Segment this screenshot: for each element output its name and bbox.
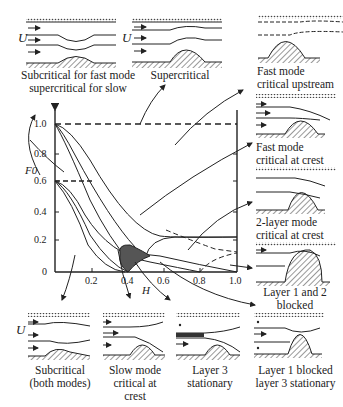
panel-fast-critical-upstream [258, 15, 343, 63]
x-tick-08: 0.8 [193, 275, 206, 286]
panel-fast-critical-crest [256, 94, 336, 138]
diagram-canvas [0, 0, 343, 407]
panel-subcritical-both [28, 313, 90, 360]
panel-layers-blocked [256, 242, 336, 286]
x-tick-04: 0.4 [121, 275, 134, 286]
panel-layer1-blocked-layer3-stationary [254, 313, 324, 358]
label-subcritical-both: Subcritical (both modes) [20, 364, 100, 390]
x-tick-06: 0.6 [157, 275, 170, 286]
panel-layer3-stationary [176, 313, 240, 360]
chart-axes [55, 110, 237, 272]
label-two-layer-critical: 2-layer mode critical at crest [256, 216, 324, 242]
x-tick-10: 1.0 [229, 275, 242, 286]
y-tick-06: 0.6 [34, 175, 47, 186]
y-tick-0: 0 [42, 266, 47, 277]
panel-two-layer-critical-crest [256, 167, 336, 214]
label-layer1-blocked: Layer 1 blocked layer 3 stationary [248, 364, 343, 390]
label-supercritical: Supercritical [140, 69, 220, 82]
label-fast-critical-upstream: Fast mode critical upstream [257, 65, 334, 91]
label-slow-critical: Slow mode critical at crest [100, 364, 170, 403]
panel-subcritical-fast [26, 18, 116, 68]
y-tick-04: 0.4 [34, 206, 47, 217]
label-subcritical-fast: Subcritical for fast mode supercritical … [4, 69, 152, 95]
label-layer3-stationary: Layer 3 stationary [175, 364, 245, 390]
label-layers-blocked: Layer 1 and 2 blocked [250, 286, 340, 312]
y-tick-02: 0.2 [34, 234, 47, 245]
panel-slow-critical-crest [103, 313, 165, 360]
u-label-top-left: U [18, 31, 27, 44]
y-tick-1: 1.0 [34, 118, 47, 129]
label-fast-critical-crest: Fast mode critical at crest [256, 141, 324, 167]
x-axis-label: H [142, 284, 150, 296]
u-label-top-middle: U [122, 31, 131, 44]
y-axis-label: F0 [25, 164, 37, 176]
shaded-region [120, 245, 150, 272]
x-tick-02: 0.2 [85, 275, 98, 286]
u-label-bottom: U [16, 323, 25, 336]
panel-supercritical [132, 18, 222, 68]
y-tick-08: 0.8 [34, 148, 47, 159]
